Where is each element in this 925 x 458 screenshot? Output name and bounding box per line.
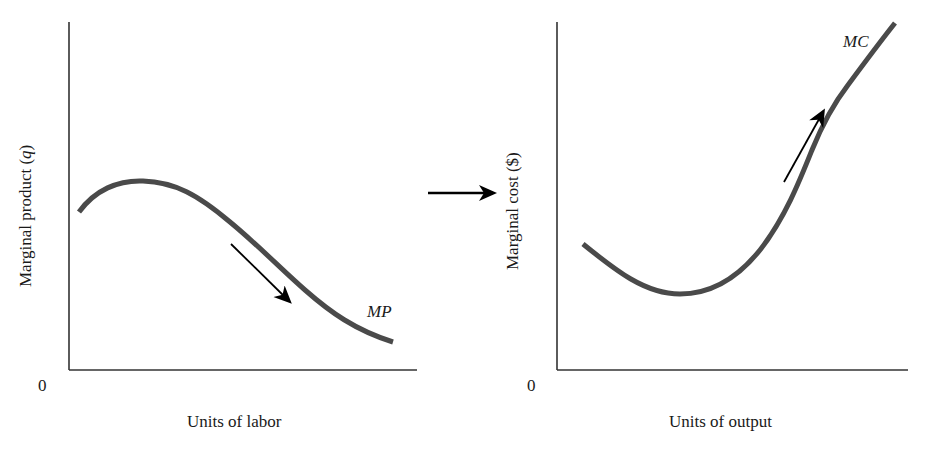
mp-falling-arrow <box>231 244 289 301</box>
mc-curve <box>583 23 895 294</box>
mp-curve <box>79 181 393 342</box>
right-y-axis-label: Marginal cost ($) <box>503 152 523 270</box>
left-y-axis-label-var: q <box>16 150 35 159</box>
left-chart <box>69 22 417 370</box>
right-origin-label: 0 <box>527 376 536 396</box>
diagram-canvas <box>0 0 925 458</box>
left-origin-label: 0 <box>38 376 47 396</box>
mc-curve-label: MC <box>843 32 869 52</box>
right-x-axis-label: Units of output <box>669 412 772 432</box>
left-y-axis-label-close: ) <box>16 145 35 151</box>
right-chart <box>557 22 908 370</box>
left-x-axis-label: Units of labor <box>187 412 281 432</box>
left-y-axis-label: Marginal product (q) <box>16 145 36 287</box>
mp-curve-label: MP <box>367 302 392 322</box>
left-y-axis-label-text: Marginal product ( <box>16 159 35 287</box>
